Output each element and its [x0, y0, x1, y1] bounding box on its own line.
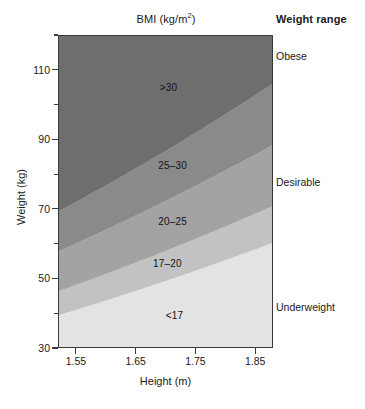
- band-label-1: <17: [166, 310, 184, 321]
- bmi-chart-figure: BMI (kg/m2) Weight range <1717–2020–2525…: [0, 0, 365, 409]
- y-tick-label-50: 50: [4, 272, 50, 284]
- x-tick-label-1.75: 1.75: [165, 355, 225, 367]
- y-tick-mark-30: [52, 347, 58, 348]
- x-tick-mark-1.55: [75, 348, 76, 354]
- y-tick-mark-90: [52, 139, 58, 140]
- y-minor-tick-60: [54, 243, 58, 244]
- band-label-5: >30: [160, 82, 178, 93]
- chart-title-close: ): [192, 13, 196, 25]
- y-minor-tick-120: [54, 34, 58, 35]
- legend-title: Weight range: [276, 13, 347, 25]
- x-tick-mark-1.65: [135, 348, 136, 354]
- legend-item-obese: Obese: [276, 50, 307, 62]
- x-tick-mark-1.75: [195, 348, 196, 354]
- y-tick-mark-50: [52, 278, 58, 279]
- y-tick-label-30: 30: [4, 342, 50, 354]
- band-label-3: 20–25: [158, 216, 187, 227]
- x-tick-mark-1.85: [255, 348, 256, 354]
- x-tick-label-1.85: 1.85: [225, 355, 285, 367]
- legend-item-desirable: Desirable: [276, 176, 320, 188]
- y-minor-tick-80: [54, 174, 58, 175]
- y-axis-title: Weight (kg): [15, 137, 27, 257]
- chart-title: BMI (kg/m2): [86, 13, 246, 25]
- y-tick-label-90: 90: [4, 133, 50, 145]
- legend-item-underweight: Underweight: [276, 301, 335, 313]
- x-tick-label-1.65: 1.65: [106, 355, 166, 367]
- y-tick-label-110: 110: [4, 64, 50, 76]
- y-tick-mark-70: [52, 208, 58, 209]
- y-tick-label-70: 70: [4, 203, 50, 215]
- y-tick-mark-110: [52, 69, 58, 70]
- x-axis-title: Height (m): [58, 375, 273, 387]
- y-minor-tick-40: [54, 313, 58, 314]
- chart-title-base: BMI (kg/m: [136, 13, 187, 25]
- band-label-2: 17–20: [153, 257, 182, 268]
- band-label-4: 25–30: [158, 160, 187, 171]
- x-tick-label-1.55: 1.55: [46, 355, 106, 367]
- y-minor-tick-100: [54, 104, 58, 105]
